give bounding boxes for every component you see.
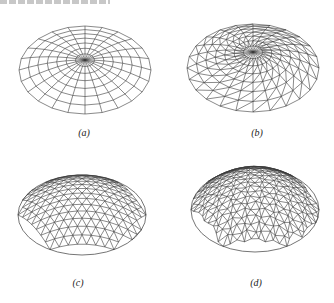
dome-panel-c <box>12 155 152 267</box>
dome-panel-d <box>185 150 325 262</box>
cropped-text-fragment <box>0 0 110 4</box>
radial-grid-dome-figure <box>15 20 155 125</box>
caption-b: (b) <box>237 127 277 138</box>
geodesic-dome-figure <box>185 150 325 262</box>
triangulated-radial-dome-figure <box>183 18 323 123</box>
dome-panel-b <box>183 18 323 123</box>
caption-a: (a) <box>64 127 104 138</box>
triangular-grid-dome-figure <box>12 155 152 267</box>
dome-panel-a <box>15 20 155 125</box>
caption-c: (c) <box>58 277 98 288</box>
caption-d: (d) <box>236 277 276 288</box>
